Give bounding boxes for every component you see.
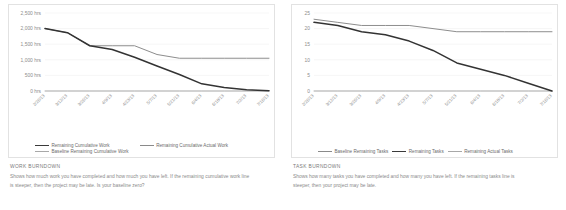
x-axis-tick-label: 4/9/13 bbox=[374, 93, 387, 106]
x-axis-tick-label: 6/18/13 bbox=[211, 93, 225, 107]
y-axis-tick-label: 10 bbox=[305, 58, 311, 63]
legend-item-remaining-tasks[interactable]: Remaining Tasks bbox=[392, 149, 443, 155]
x-axis-tick-label: 3/26/13 bbox=[77, 93, 91, 107]
legend-item-baseline-remaining-cumulative-work[interactable]: Baseline Remaining Cumulative Work bbox=[35, 149, 129, 155]
x-axis-tick-label: 2/26/13 bbox=[32, 93, 46, 107]
caption-body: Shows how much work you have completed a… bbox=[10, 172, 250, 190]
work-burndown-plot: 0 hrs500 hrs1,000 hrs1,500 hrs2,000 hrs2… bbox=[9, 5, 274, 125]
task-burndown-plot: 05101520252/26/133/12/133/26/134/9/134/2… bbox=[292, 5, 557, 125]
task-burndown-legend: Baseline Remaining Tasks Remaining Tasks… bbox=[292, 149, 557, 155]
legend-row: Baseline Remaining Cumulative Work bbox=[9, 149, 274, 155]
legend-label: Baseline Remaining Tasks bbox=[335, 149, 389, 155]
work-burndown-chart-box[interactable]: 0 hrs500 hrs1,000 hrs1,500 hrs2,000 hrs2… bbox=[8, 4, 275, 158]
legend-item-remaining-actual-tasks[interactable]: Remaining Actual Tasks bbox=[448, 149, 513, 155]
y-axis-tick-label: 0 hrs bbox=[30, 89, 41, 94]
x-axis-tick-label: 3/26/13 bbox=[348, 93, 362, 107]
series-line-remaining-tasks bbox=[314, 22, 552, 91]
work-burndown-caption: WORK BURNDOWN Shows how much work you ha… bbox=[8, 158, 275, 190]
y-axis-tick-label: 1,000 hrs bbox=[21, 58, 42, 63]
legend-item-baseline-remaining-tasks[interactable]: Baseline Remaining Tasks bbox=[318, 149, 388, 155]
legend-line-icon bbox=[140, 145, 154, 146]
y-axis-tick-label: 1,500 hrs bbox=[21, 42, 42, 47]
y-axis-tick-label: 500 hrs bbox=[25, 73, 42, 78]
legend-line-icon bbox=[392, 151, 406, 152]
series-line-baseline-remaining-tasks bbox=[314, 19, 552, 31]
legend-line-icon bbox=[35, 145, 49, 146]
task-burndown-caption: TASK BURNDOWN Shows how many tasks you h… bbox=[291, 158, 558, 190]
y-axis-tick-label: 25 bbox=[305, 11, 311, 16]
x-axis-tick-label: 7/16/13 bbox=[539, 93, 553, 107]
legend-line-icon bbox=[35, 151, 49, 152]
series-line-remaining-cumulative-actual-work bbox=[45, 29, 269, 59]
x-axis-tick-label: 7/2/13 bbox=[517, 93, 530, 106]
caption-body: Shows how many tasks you have completed … bbox=[293, 172, 533, 190]
task-burndown-svg: 05101520252/26/133/12/133/26/134/9/134/2… bbox=[292, 5, 558, 125]
x-axis-tick-label: 2/26/13 bbox=[301, 93, 315, 107]
x-axis-tick-label: 5/7/13 bbox=[422, 93, 435, 106]
x-axis-tick-label: 3/12/13 bbox=[325, 93, 339, 107]
x-axis-tick-label: 6/4/13 bbox=[469, 93, 482, 106]
y-axis-tick-label: 20 bbox=[305, 26, 311, 31]
x-axis-tick-label: 5/7/13 bbox=[146, 93, 159, 106]
work-burndown-svg: 0 hrs500 hrs1,000 hrs1,500 hrs2,000 hrs2… bbox=[9, 5, 275, 125]
legend-label: Baseline Remaining Cumulative Work bbox=[52, 149, 129, 155]
y-axis-tick-label: 15 bbox=[305, 42, 311, 47]
work-burndown-panel: 0 hrs500 hrs1,000 hrs1,500 hrs2,000 hrs2… bbox=[0, 0, 283, 210]
legend-item-remaining-cumulative-actual-work[interactable]: Remaining Cumulative Actual Work bbox=[140, 143, 228, 149]
y-axis-tick-label: 2,500 hrs bbox=[21, 11, 42, 16]
x-axis-tick-label: 5/21/13 bbox=[166, 93, 180, 107]
x-axis-tick-label: 6/18/13 bbox=[491, 93, 505, 107]
x-axis-tick-label: 5/21/13 bbox=[444, 93, 458, 107]
legend-line-icon bbox=[448, 151, 462, 152]
y-axis-tick-label: 0 bbox=[307, 89, 310, 94]
legend-label: Remaining Tasks bbox=[409, 149, 444, 155]
task-burndown-panel: 05101520252/26/133/12/133/26/134/9/134/2… bbox=[283, 0, 566, 210]
work-burndown-legend: Remaining Cumulative Work Remaining Cumu… bbox=[9, 143, 274, 155]
x-axis-tick-label: 4/9/13 bbox=[101, 93, 114, 106]
burndown-report: 0 hrs500 hrs1,000 hrs1,500 hrs2,000 hrs2… bbox=[0, 0, 566, 210]
caption-title: TASK BURNDOWN bbox=[293, 164, 556, 169]
x-axis-tick-label: 7/2/13 bbox=[235, 93, 248, 106]
legend-line-icon bbox=[318, 151, 332, 152]
task-burndown-chart-box[interactable]: 05101520252/26/133/12/133/26/134/9/134/2… bbox=[291, 4, 558, 158]
y-axis-tick-label: 5 bbox=[307, 73, 310, 78]
legend-label: Remaining Actual Tasks bbox=[464, 149, 513, 155]
y-axis-tick-label: 2,000 hrs bbox=[21, 26, 42, 31]
x-axis-tick-label: 7/16/13 bbox=[256, 93, 270, 107]
legend-row: Baseline Remaining Tasks Remaining Tasks… bbox=[292, 149, 557, 155]
x-axis-tick-label: 6/4/13 bbox=[190, 93, 203, 106]
x-axis-tick-label: 3/12/13 bbox=[54, 93, 68, 107]
x-axis-tick-label: 4/23/13 bbox=[396, 93, 410, 107]
x-axis-tick-label: 4/23/13 bbox=[121, 93, 135, 107]
caption-title: WORK BURNDOWN bbox=[10, 164, 273, 169]
legend-label: Remaining Cumulative Actual Work bbox=[156, 143, 228, 149]
